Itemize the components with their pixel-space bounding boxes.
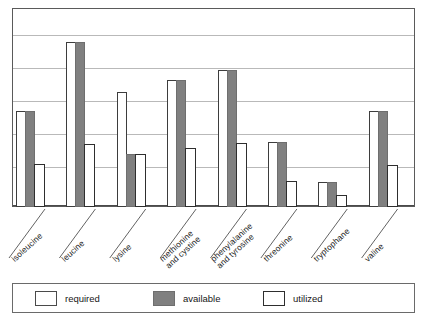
bar-group [16, 8, 66, 207]
bar-utilized [236, 143, 247, 207]
chart-legend: required available utilized [12, 283, 415, 313]
category-label: valine [363, 242, 386, 264]
bar-utilized [387, 165, 398, 207]
bar-group [66, 8, 116, 207]
category-label-line: tryptophane [312, 227, 352, 264]
bar-group [117, 8, 167, 207]
category-label-line: leucine [60, 239, 87, 264]
bar-group [369, 8, 419, 207]
category-label: tryptophane [312, 227, 352, 264]
bar-groups [12, 8, 415, 207]
category-label-line: lysine [111, 242, 134, 264]
available-swatch [153, 291, 175, 306]
amino-acid-bar-chart: isoleucineleucinelysinemethionineand cys… [0, 0, 425, 319]
legend-item-available: available [153, 291, 221, 306]
category-label-line: valine [363, 242, 386, 264]
legend-item-utilized: utilized [263, 291, 323, 306]
legend-label-required: required [65, 293, 100, 304]
category-label: threonine [262, 233, 295, 264]
bar-group [318, 8, 368, 207]
required-swatch [35, 291, 57, 306]
bar-utilized [135, 154, 146, 207]
category-label-line: threonine [262, 233, 295, 264]
category-label: lysine [111, 242, 134, 264]
bar-utilized [336, 195, 347, 207]
bar-group [268, 8, 318, 207]
bar-group [167, 8, 217, 207]
legend-label-utilized: utilized [293, 293, 323, 304]
bar-utilized [185, 148, 196, 207]
bar-utilized [84, 144, 95, 207]
category-label: methionineand cystine [158, 228, 203, 271]
category-label: phenylalanineand tyrosine [209, 222, 261, 271]
bar-group [218, 8, 268, 207]
legend-item-required: required [35, 291, 100, 306]
category-label: leucine [60, 239, 87, 264]
bar-utilized [34, 164, 45, 207]
legend-label-available: available [183, 293, 221, 304]
category-label: isoleucine [10, 231, 45, 264]
category-label-line: isoleucine [10, 231, 45, 264]
utilized-swatch [263, 291, 285, 306]
bar-utilized [286, 181, 297, 207]
